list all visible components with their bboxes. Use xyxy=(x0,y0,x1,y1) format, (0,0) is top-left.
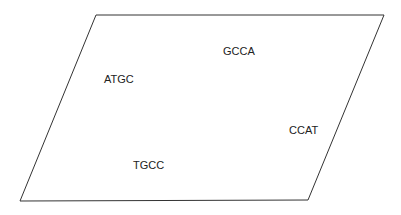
label-ccat: CCAT xyxy=(289,124,318,136)
label-atgc: ATGC xyxy=(104,73,134,85)
label-tgcc: TGCC xyxy=(133,159,164,171)
parallelogram-plane xyxy=(20,15,384,201)
label-gcca: GCCA xyxy=(223,45,255,57)
plane-diagram xyxy=(0,0,401,215)
